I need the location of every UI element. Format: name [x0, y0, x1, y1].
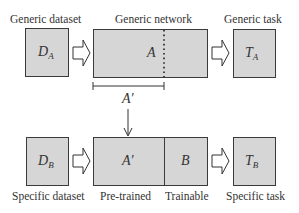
block-arrow-right-icon	[212, 148, 229, 174]
label-specific-dataset: Specific dataset	[12, 190, 84, 202]
arrow-down-icon	[124, 109, 132, 136]
label-pretrained: Pre-trained	[100, 190, 151, 202]
bracket-label: A′	[122, 92, 134, 106]
block-arrow-right-icon	[73, 40, 90, 66]
block-arrow-right-icon	[73, 148, 90, 174]
block-arrow-right-icon	[212, 40, 229, 66]
pretrained-span-bracket	[93, 82, 164, 90]
label-trainable: Trainable	[165, 190, 209, 202]
diagram-overlay	[0, 0, 299, 213]
label-specific-task: Specific task	[226, 190, 285, 202]
